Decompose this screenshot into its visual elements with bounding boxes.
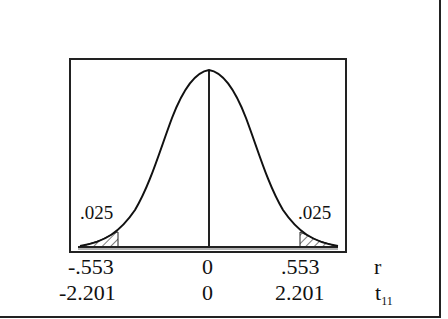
r-tick-center: 0 (202, 256, 213, 278)
right-tail-area-label: .025 (298, 203, 331, 222)
t-axis-df: 11 (381, 294, 393, 308)
t-tick-right: 2.201 (275, 282, 325, 304)
r-axis-name: r (374, 256, 381, 278)
t-axis-name: t11 (375, 282, 393, 312)
r-tick-left: -.553 (68, 256, 114, 278)
t-tick-center: 0 (202, 282, 213, 304)
left-tail-area-label: .025 (80, 203, 113, 222)
r-tick-right: .553 (281, 256, 320, 278)
t-tick-left: -2.201 (59, 282, 116, 304)
